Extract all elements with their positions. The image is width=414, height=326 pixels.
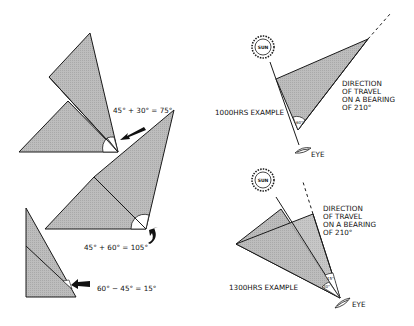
eye-icon — [335, 298, 350, 308]
svg-text:SUN: SUN — [258, 45, 269, 50]
eye-label: EYE — [311, 150, 325, 159]
angle-label: 60° — [296, 120, 303, 125]
eye-icon — [295, 148, 311, 154]
diagram-canvas: 45° + 30° = 75° 45° + 60° = 105° 60° − 4… — [0, 0, 414, 326]
sun-icon: SUN — [252, 169, 274, 191]
example-1300hrs: SUN 15° 30° 1300HRS EXAMPLE DIRECTION OF… — [229, 169, 376, 309]
example-1000hrs: SUN 60° 1000HRS EXAMPLE DIRECTION OF TRA… — [215, 14, 395, 159]
example-label: 1000HRS EXAMPLE — [215, 108, 284, 117]
eye-label: EYE — [352, 300, 366, 309]
example-label: 1300HRS EXAMPLE — [229, 283, 298, 292]
direction-label-line: OF 210° — [323, 228, 352, 237]
curved-arrow-icon — [148, 227, 158, 244]
direction-dashed-line — [303, 182, 313, 214]
equation-label: 45° + 60° = 105° — [84, 243, 148, 252]
direction-dashed-line — [368, 14, 390, 39]
angle-label: 30° — [323, 284, 330, 289]
sun-icon: SUN — [252, 36, 274, 58]
direction-label-line: OF 210° — [342, 103, 371, 112]
angle-label: 15° — [327, 276, 334, 281]
arrow-icon — [71, 279, 90, 289]
equation-label: 60° − 45° = 15° — [97, 284, 156, 293]
svg-text:SUN: SUN — [258, 178, 269, 183]
equation-label: 45° + 30° = 75° — [113, 106, 172, 115]
